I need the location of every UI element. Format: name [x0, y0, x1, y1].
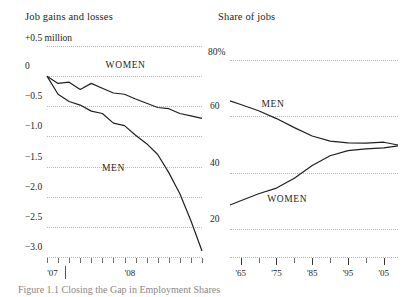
series-label-women: WOMEN: [106, 60, 146, 70]
x-axis-tick: [58, 258, 59, 263]
panel-share-of-jobs: Share of jobs 80%604020 MENWOMEN '65'75'…: [206, 0, 412, 297]
x-axis-baseline: [230, 257, 398, 258]
x-axis-tick: [80, 258, 81, 263]
x-axis-tick: [147, 258, 148, 263]
x-axis-tick: [125, 258, 126, 263]
y-axis-tick-label: 20: [210, 214, 220, 227]
left-chart-title: Job gains and losses: [25, 11, 113, 22]
x-axis-tick: [158, 258, 159, 263]
y-axis-tick-label: −1.5: [25, 152, 42, 165]
y-axis-tick-label: −0.5: [25, 91, 42, 104]
left-plot-area: +0.5 million0−0.5−1.0−1.5−2.0−2.5−3.0 WO…: [47, 46, 202, 257]
y-axis-tick-label: −2.5: [25, 212, 42, 225]
x-axis-tick-label: '65: [235, 268, 246, 278]
x-axis-tick-label: '95: [343, 268, 354, 278]
x-axis-tick-label: '08: [125, 268, 136, 278]
x-axis-tick: [312, 258, 313, 265]
left-series-lines: [47, 46, 202, 257]
caption-text: Figure 1.1 Closing the Gap in Employment…: [18, 286, 220, 295]
x-axis-tick: [69, 258, 70, 263]
left-line-women: [47, 76, 202, 118]
x-axis-tick: [169, 258, 170, 263]
y-axis-tick-label: −1.0: [25, 121, 42, 134]
right-line-men: [230, 101, 398, 145]
x-axis-tick: [202, 258, 203, 263]
right-plot-area: 80%604020 MENWOMEN '65'75'85'95'05: [230, 46, 398, 257]
y-axis-tick-label: 80%: [208, 47, 225, 60]
x-axis-tick: [91, 258, 92, 263]
series-label-men: MEN: [102, 163, 125, 173]
x-axis-tick: [384, 258, 385, 265]
right-series-lines: [230, 46, 398, 257]
x-axis-tick: [241, 258, 242, 265]
right-chart-title: Share of jobs: [218, 11, 275, 22]
x-axis-tick-label: '05: [378, 268, 389, 278]
x-axis-tick: [102, 258, 103, 263]
y-axis-tick-label: 40: [210, 158, 220, 171]
figure-container: Job gains and losses +0.5 million0−0.5−1…: [0, 0, 412, 297]
x-axis-tick: [276, 258, 277, 265]
x-axis-tick: [191, 258, 192, 263]
x-axis-tick: [113, 258, 114, 263]
x-axis-tick: [136, 258, 137, 263]
year-divider: [65, 266, 66, 279]
x-axis-tick-label: '85: [307, 268, 318, 278]
x-axis-tick: [47, 258, 48, 263]
x-axis-tick: [366, 258, 367, 263]
y-axis-tick-label: 0: [25, 61, 30, 74]
x-axis-tick: [180, 258, 181, 263]
x-axis-tick: [294, 258, 295, 263]
panel-job-gains-and-losses: Job gains and losses +0.5 million0−0.5−1…: [0, 0, 206, 297]
x-axis-tick-label: '07: [47, 268, 58, 278]
x-axis-tick: [330, 258, 331, 263]
series-label-men: MEN: [261, 99, 284, 109]
y-axis-tick-label: +0.5 million: [25, 33, 72, 46]
right-line-women: [230, 146, 398, 205]
x-axis-tick: [259, 258, 260, 263]
x-axis-tick: [348, 258, 349, 265]
y-axis-tick-label: −2.0: [25, 182, 42, 195]
series-label-women: WOMEN: [267, 194, 307, 204]
y-axis-tick-label: −3.0: [25, 242, 42, 255]
page-caption-sliver: Figure 1.1 Closing the Gap in Employment…: [0, 286, 412, 297]
x-axis-tick-label: '75: [271, 268, 282, 278]
y-axis-tick-label: 60: [210, 101, 220, 114]
